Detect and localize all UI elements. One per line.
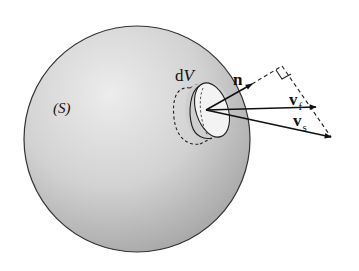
normal-vector-label: n [233,71,242,88]
diagram-canvas [0,0,359,271]
surface-label: (S) [53,101,71,116]
surface-velocity-label-main: v [293,111,302,130]
sphere-surface [24,26,250,252]
volume-element-label: dV [175,67,194,84]
volume-element-label-d: d [175,66,184,85]
surface-velocity-label-sub: s [303,121,307,133]
volume-element-label-v: V [184,66,194,85]
control-volume-diagram: (S) dV n vf vs [0,0,359,271]
right-angle-marker [276,70,291,79]
surface-velocity-label: vs [293,112,307,129]
fluid-velocity-label: vf [289,91,302,108]
fluid-velocity-label-main: v [289,90,298,109]
